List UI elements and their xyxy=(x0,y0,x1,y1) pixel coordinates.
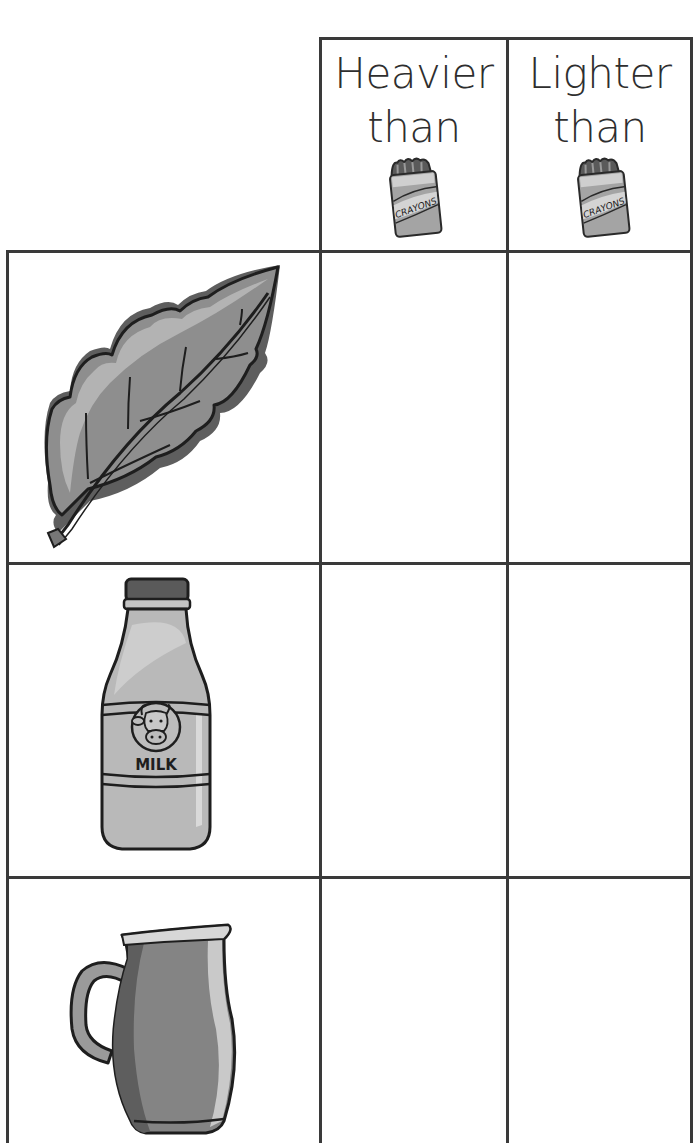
answer-cell-milk-bottle-lighter[interactable] xyxy=(509,565,690,876)
column-header-lighter-line1: Lighter xyxy=(509,45,691,103)
crayon-box-icon: CRAYONS xyxy=(572,153,634,241)
crayon-box-icon: CRAYONS xyxy=(384,153,446,241)
answer-cell-pitcher-heavier[interactable] xyxy=(322,879,506,1143)
row-picture-pitcher xyxy=(10,879,320,1143)
row-picture-milk-bottle: MILK xyxy=(10,565,320,876)
grid-line-left-edge xyxy=(6,250,9,1143)
column-header-heavier-line2: than xyxy=(322,99,506,157)
column-header-lighter-line2: than xyxy=(509,99,691,157)
svg-text:MILK: MILK xyxy=(135,756,178,774)
column-header-lighter: Lighter than CRAYONS xyxy=(509,40,691,251)
column-header-heavier: Heavier than CRAYONS xyxy=(322,40,506,251)
column-header-heavier-line1: Heavier xyxy=(322,45,506,103)
row-picture-leaf xyxy=(10,253,320,562)
answer-cell-milk-bottle-heavier[interactable] xyxy=(322,565,506,876)
pitcher-icon xyxy=(10,879,320,1143)
leaf-icon xyxy=(10,253,320,562)
answer-cell-pitcher-lighter[interactable] xyxy=(509,879,690,1143)
answer-cell-leaf-heavier[interactable] xyxy=(322,253,506,562)
milk-bottle-icon: MILK xyxy=(10,565,320,876)
answer-cell-leaf-lighter[interactable] xyxy=(509,253,690,562)
